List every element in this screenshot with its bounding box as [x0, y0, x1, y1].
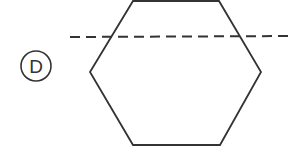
dashed-cut-line	[70, 36, 292, 37]
diagram-canvas: D	[0, 0, 298, 149]
hexagon-shape	[90, 1, 261, 145]
label-letter: D	[29, 56, 43, 77]
option-label: D	[21, 51, 51, 81]
